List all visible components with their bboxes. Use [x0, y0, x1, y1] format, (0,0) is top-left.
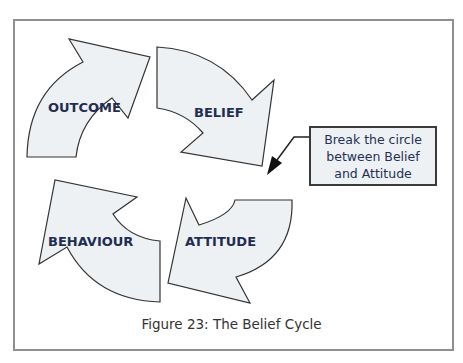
figure-caption: Figure 23: The Belief Cycle [0, 316, 463, 332]
belief-arrow: BELIEF [157, 47, 274, 166]
attitude-arrow: ATTITUDE [168, 198, 292, 303]
pointer-arrowhead-icon [267, 156, 282, 175]
outcome-arrow: OUTCOME [27, 39, 150, 157]
attitude-label: ATTITUDE [185, 234, 256, 249]
outcome-label: OUTCOME [48, 100, 121, 115]
behaviour-arrow: BEHAVIOUR [39, 180, 160, 302]
belief-label: BELIEF [194, 105, 244, 120]
callout-pointer [267, 137, 309, 175]
callout-line-2: between Belief [324, 148, 422, 165]
callout-line-3: and Attitude [324, 165, 422, 182]
callout-line-1: Break the circle [324, 131, 422, 148]
behaviour-label: BEHAVIOUR [48, 234, 133, 249]
callout-box: Break the circle between Belief and Atti… [309, 126, 437, 186]
